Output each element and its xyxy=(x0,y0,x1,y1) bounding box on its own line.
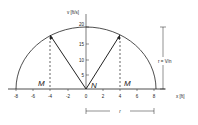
x-tick-label: 0 xyxy=(85,94,88,99)
point-label-m-right: M xyxy=(124,79,131,88)
height-label: r = V/n xyxy=(158,59,172,64)
point-label-n: N xyxy=(91,81,97,90)
x-tick-label: -8 xyxy=(14,94,18,99)
y-tick-label: 15 xyxy=(79,42,85,47)
diagram-figure: -8 -6 -4 -2 0 2 4 6 8 5 10 15 20 v [ft/s… xyxy=(0,0,198,125)
x-axis-label: x [ft] xyxy=(176,94,185,99)
x-tick-label: -6 xyxy=(31,94,35,99)
x-tick-label: 4 xyxy=(119,94,122,99)
x-tick-label: 8 xyxy=(153,94,156,99)
y-ticks xyxy=(86,27,89,75)
x-tick-label: 6 xyxy=(136,94,139,99)
x-tick-label: -4 xyxy=(48,94,52,99)
y-tick-label: 10 xyxy=(79,58,85,63)
y-axis-label: v [ft/s] xyxy=(67,10,79,15)
diagram-canvas: -8 -6 -4 -2 0 2 4 6 8 5 10 15 20 v [ft/s… xyxy=(0,0,198,125)
y-tick-label: 5 xyxy=(81,73,84,78)
x-tick-label: 2 xyxy=(102,94,105,99)
point-label-m-left: M xyxy=(38,79,45,88)
y-tick-label: 20 xyxy=(79,22,85,27)
x-tick-label: -2 xyxy=(66,94,70,99)
